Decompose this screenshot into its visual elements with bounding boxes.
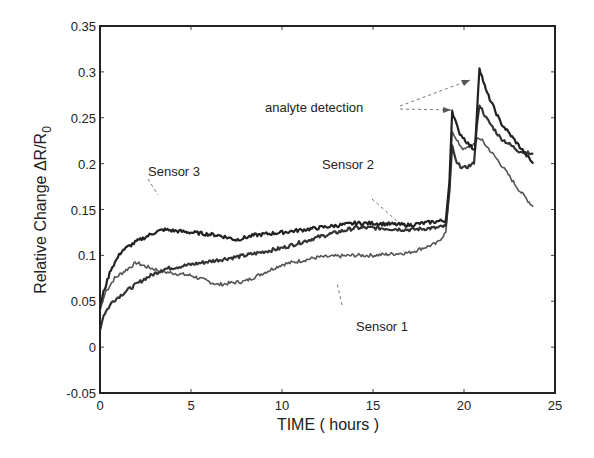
series-line-sensor-2 [100, 106, 533, 331]
x-tick-label: 20 [457, 398, 471, 413]
y-tick-label: 0.2 [78, 157, 96, 172]
y-tick-label: 0.1 [78, 248, 96, 263]
y-axis-label-main: Relative Change ΔR/R [32, 133, 49, 294]
x-axis-label: TIME ( hours ) [277, 416, 379, 433]
sensor2-label: Sensor 2 [322, 157, 374, 172]
x-axis-ticks: 0510152025 [96, 26, 562, 413]
y-tick-label: 0 [89, 340, 96, 355]
y-axis-label: Relative Change ΔR/R0 [32, 126, 54, 294]
line-chart: -0.0500.050.10.150.20.250.30.35 05101520… [0, 0, 594, 458]
y-tick-label: 0.15 [71, 203, 96, 218]
y-tick-label: 0.3 [78, 65, 96, 80]
sensor3-pointer [148, 179, 158, 195]
x-tick-label: 10 [275, 398, 289, 413]
plot-frame [100, 26, 555, 393]
y-tick-label: 0.05 [71, 294, 96, 309]
y-tick-label: 0.35 [71, 19, 96, 34]
sensor3-label: Sensor 3 [148, 164, 200, 179]
analyte-pointer-2 [400, 80, 470, 106]
series-line-sensor-1 [100, 132, 533, 311]
analyte-detection-label: analyte detection [265, 100, 363, 115]
y-axis-label-subscript: 0 [40, 126, 54, 133]
x-tick-label: 15 [366, 398, 380, 413]
arrow-head-icon [443, 107, 451, 113]
x-tick-label: 25 [548, 398, 562, 413]
sensor1-pointer [337, 283, 342, 305]
sensor1-label: Sensor 1 [356, 319, 408, 334]
x-tick-label: 5 [187, 398, 194, 413]
sensor2-pointer [372, 199, 398, 222]
y-tick-label: -0.05 [66, 386, 96, 401]
x-tick-label: 0 [96, 398, 103, 413]
y-tick-label: 0.25 [71, 111, 96, 126]
